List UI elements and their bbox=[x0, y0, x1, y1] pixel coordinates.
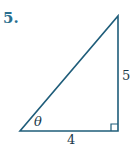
horizontal-side-label: 4 bbox=[67, 132, 75, 147]
angle-theta-label: θ bbox=[34, 114, 42, 129]
vertical-side-label: 5 bbox=[122, 68, 130, 83]
right-triangle-figure bbox=[0, 0, 140, 147]
right-angle-marker-icon bbox=[111, 124, 118, 131]
